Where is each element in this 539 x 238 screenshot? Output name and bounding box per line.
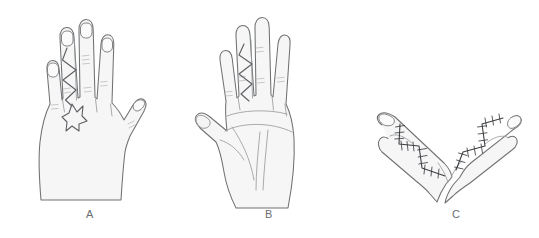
nail-middle <box>62 31 74 46</box>
panel-a-dorsal-hand <box>0 0 180 238</box>
nail-index <box>48 63 59 77</box>
panel-label-a: A <box>86 208 94 220</box>
figure-container: A B C <box>0 0 539 238</box>
panel-label-b: B <box>265 208 273 220</box>
nail-little <box>102 38 113 52</box>
hand-outline-dorsal <box>39 20 146 201</box>
panel-b-palmar-hand <box>180 0 360 238</box>
panel-label-c: C <box>452 208 460 220</box>
nail-finger-right <box>508 116 521 129</box>
nail-ring <box>81 23 93 38</box>
panel-c-sutured-fingers <box>360 0 539 238</box>
